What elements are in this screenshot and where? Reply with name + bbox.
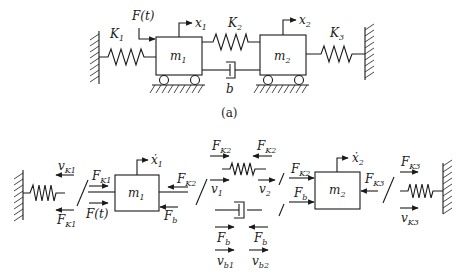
damper-b <box>202 62 260 78</box>
fk2-label-m1: FK2 <box>176 172 196 188</box>
fb-label-dr: Fb <box>253 231 267 247</box>
fbd-spring-k2: FK2 FK2 v1 v2 <box>210 139 276 198</box>
v1-label: v1 <box>211 182 223 198</box>
right-wall <box>365 24 374 80</box>
x1dot-label: ẋ1 <box>151 153 163 169</box>
fb-label-m2: Fb <box>293 186 307 202</box>
spring-k1 <box>99 49 156 65</box>
fb-label-dl: Fb <box>216 231 230 247</box>
spring-k2-label: K2 <box>227 16 242 32</box>
ground-1 <box>150 85 205 93</box>
fbd-mass-m1: m1 ẋ1 FK1 F(t) FK2 Fb <box>85 153 196 225</box>
x1-arrow <box>179 23 192 37</box>
vk3-label: vK3 <box>401 211 419 227</box>
x1dot-arrow <box>137 160 148 175</box>
wheel <box>191 76 200 85</box>
fk3-label-m2: FK3 <box>364 172 384 188</box>
v2-label: v2 <box>259 182 271 198</box>
ft-label-m1: F(t) <box>85 207 109 221</box>
spring-k2 <box>202 34 260 50</box>
wheel <box>264 76 273 85</box>
cut-mark <box>383 177 394 203</box>
fk3-label-right: FK3 <box>400 155 420 171</box>
fbd-mass-m2: m2 ẋ2 FK2 Fb FK3 <box>289 151 384 209</box>
fbd-spring-k1: vK1 FK1 <box>14 159 76 229</box>
x2-label: x2 <box>299 13 311 29</box>
x1-label: x1 <box>195 16 207 32</box>
spring-k3 <box>306 46 365 62</box>
spring-k1-label: K1 <box>109 27 124 43</box>
fk2-label-m2: FK2 <box>290 162 310 178</box>
fbd-spring-k3: FK3 vK3 <box>400 155 452 227</box>
spring-k3-label: K3 <box>329 26 344 42</box>
fk2-label-sr: FK2 <box>256 139 276 155</box>
force-ft-label: F(t) <box>131 9 155 23</box>
free-body-diagrams: vK1 FK1 m1 ẋ1 FK1 F(t) FK2 Fb <box>14 139 452 270</box>
ground-2 <box>254 85 309 93</box>
vb1-label: vb1 <box>217 254 234 270</box>
force-ft-arrow <box>139 28 155 39</box>
vk1-label: vK1 <box>58 159 76 175</box>
caption-a: (a) <box>221 106 238 120</box>
fk2-label-sl: FK2 <box>211 139 231 155</box>
cut-mark <box>279 173 284 185</box>
wheel <box>160 76 169 85</box>
cut-mark <box>279 204 284 216</box>
cut-mark <box>196 179 207 205</box>
damper-b-label: b <box>226 82 234 96</box>
x2dot-label: ẋ2 <box>352 151 364 167</box>
fb-label-m1: Fb <box>163 209 177 225</box>
vb2-label: vb2 <box>252 254 269 270</box>
mass-spring-damper-diagram: K1 m1 F(t) x1 K2 <box>0 0 463 278</box>
x2dot-arrow <box>337 158 348 172</box>
fk1-label-left: FK1 <box>56 213 76 229</box>
x2-arrow <box>283 20 296 35</box>
system-schematic: K1 m1 F(t) x1 K2 <box>90 9 374 120</box>
wheel <box>295 76 304 85</box>
left-wall <box>90 31 99 84</box>
cut-mark <box>77 180 88 206</box>
fk1-label-m1: FK1 <box>91 169 111 185</box>
fbd-damper: Fb Fb vb1 vb2 <box>215 202 269 270</box>
